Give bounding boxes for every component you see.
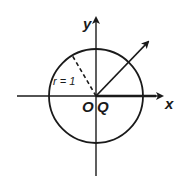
origin-label: O [82,98,94,115]
radius-label: r = 1 [53,75,75,87]
point-q-label: Q [97,98,109,115]
x-axis-label: x [164,95,174,112]
dashed-radius [72,55,96,96]
unit-circle-diagram: y x O Q r = 1 [0,0,185,187]
y-axis-label: y [82,15,92,32]
